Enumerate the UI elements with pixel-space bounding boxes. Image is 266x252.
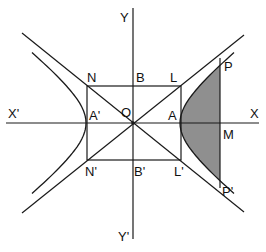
label-y: Y xyxy=(120,10,129,25)
label-l: L xyxy=(170,70,177,85)
label-b: B xyxy=(136,70,145,85)
label-n-prime: N' xyxy=(85,164,97,179)
label-a-prime: A' xyxy=(89,108,100,123)
label-x: X xyxy=(250,106,259,121)
hyperbola-diagram: Y Y' X X' O N B L A A' N' B' L' P M P' xyxy=(0,0,266,252)
label-a: A xyxy=(168,108,177,123)
origin-point xyxy=(131,121,135,125)
label-b-prime: B' xyxy=(134,164,145,179)
label-p-prime: P' xyxy=(222,184,233,199)
label-m: M xyxy=(223,127,234,142)
label-o: O xyxy=(121,105,131,120)
label-n: N xyxy=(87,70,96,85)
label-l-prime: L' xyxy=(174,164,184,179)
label-y-prime: Y' xyxy=(118,229,129,244)
label-x-prime: X' xyxy=(8,106,19,121)
label-p: P xyxy=(224,59,233,74)
